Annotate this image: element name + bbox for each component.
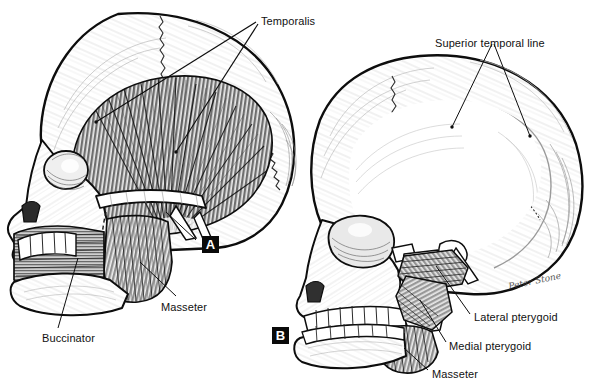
anatomy-figure: Temporalis Superior temporal line Masset… — [0, 0, 600, 390]
label-medial-pterygoid: Medial pterygoid — [449, 341, 531, 352]
label-masseter-a: Masseter — [161, 302, 207, 313]
skull-b-nasal-aperture — [306, 282, 324, 303]
label-lateral-pterygoid: Lateral pterygoid — [474, 312, 558, 323]
panel-badge-a: A — [202, 236, 219, 253]
temporalis-leader-dot-2 — [174, 150, 177, 153]
label-masseter-b: Masseter — [432, 369, 478, 380]
skull-a-nasal-aperture — [22, 202, 40, 223]
label-buccinator: Buccinator — [42, 333, 95, 344]
superior-temporal-line-dot-2 — [528, 134, 531, 137]
skull-b-orbit-highlight — [348, 223, 372, 237]
label-superior-temporal-line: Superior temporal line — [435, 38, 545, 49]
superior-temporal-line-dot-1 — [450, 125, 453, 128]
label-temporalis: Temporalis — [261, 16, 315, 27]
skull-a-mandible-body — [11, 273, 128, 315]
panel-badge-b: B — [272, 327, 289, 344]
temporalis-leader-dot-1 — [94, 120, 97, 123]
skull-a-orbit-highlight — [61, 159, 79, 173]
